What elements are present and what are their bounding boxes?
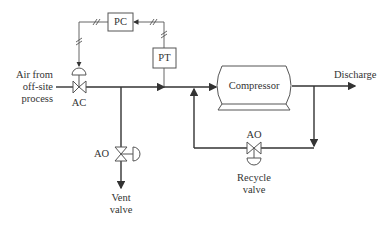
inlet-label-3: process bbox=[0, 93, 53, 105]
recycle-valve-label-1: Recycle bbox=[229, 172, 279, 184]
discharge-label: Discharge bbox=[334, 69, 376, 81]
inlet-valve-icon[interactable] bbox=[72, 68, 86, 93]
transmitter-label: PT bbox=[153, 52, 176, 64]
diagram-canvas bbox=[0, 0, 391, 226]
inlet-label-1: Air from bbox=[0, 69, 53, 81]
inlet-valve-label: AC bbox=[66, 97, 92, 109]
vent-valve-icon[interactable] bbox=[115, 147, 140, 161]
inlet-label-2: off-site bbox=[0, 81, 53, 93]
vent-valve-label-2: valve bbox=[101, 204, 141, 216]
discharge-line bbox=[292, 86, 355, 146]
recycle-valve-action: AO bbox=[240, 129, 268, 141]
vent-valve-action: AO bbox=[94, 148, 109, 160]
recycle-valve-label-2: valve bbox=[229, 184, 279, 196]
recycle-valve-icon[interactable] bbox=[247, 142, 261, 165]
vent-valve-label-1: Vent bbox=[101, 192, 141, 204]
controller-label: PC bbox=[108, 16, 133, 28]
compressor-label: Compressor bbox=[214, 80, 294, 92]
pid-diagram: PC PT Compressor Discharge Air from off-… bbox=[0, 0, 391, 226]
